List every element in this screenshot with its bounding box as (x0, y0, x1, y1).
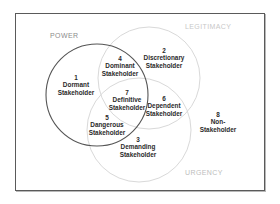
region-number: 6 (146, 95, 183, 102)
region-line1: Dangerous (89, 121, 126, 128)
legitimacy-set-label: LEGITIMACY (185, 23, 231, 31)
region-line1: Demanding (120, 143, 157, 150)
region-line2: Stakeholder (120, 151, 157, 158)
region-line1: Definitive (109, 96, 146, 103)
region-line2: Stakeholder (109, 104, 146, 111)
power-set-label: POWER (50, 32, 78, 40)
region-line2: Stakeholder (58, 89, 95, 96)
region-dependent: 6 Dependent Stakeholder (146, 95, 183, 117)
region-line2: Stakeholder (89, 129, 126, 136)
region-dormant: 1 Dormant Stakeholder (58, 74, 95, 96)
region-line1: Dominant (102, 62, 139, 69)
region-number: 1 (58, 74, 95, 81)
region-line2: Stakeholder (144, 62, 185, 69)
region-dangerous: 5 Dangerous Stakeholder (89, 114, 126, 136)
urgency-set-label: URGENCY (185, 169, 223, 177)
region-number: 8 (200, 111, 237, 118)
region-line2: Stakeholder (146, 110, 183, 117)
region-line1: Discretionary (144, 54, 185, 61)
region-definitive: 7 Definitive Stakeholder (109, 89, 146, 111)
region-line2: Stakeholder (102, 70, 139, 77)
region-number: 4 (102, 55, 139, 62)
region-non-stakeholder: 8 Non- Stakeholder (200, 111, 237, 133)
region-demanding: 3 Demanding Stakeholder (120, 136, 157, 158)
region-line2: Stakeholder (200, 126, 237, 133)
region-line1: Non- (200, 118, 237, 125)
region-number: 5 (89, 114, 126, 121)
region-number: 3 (120, 136, 157, 143)
region-number: 2 (144, 47, 185, 54)
region-number: 7 (109, 89, 146, 96)
region-discretionary: 2 Discretionary Stakeholder (144, 47, 185, 69)
region-line1: Dependent (146, 102, 183, 109)
region-line1: Dormant (58, 81, 95, 88)
region-dominant: 4 Dominant Stakeholder (102, 55, 139, 77)
